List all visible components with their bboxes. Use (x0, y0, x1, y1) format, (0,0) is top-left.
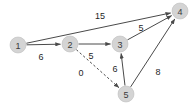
graph-node-3[interactable]: 3 (112, 36, 128, 52)
node-label-2: 2 (67, 40, 72, 50)
graph-figure: 15650568 12345 (0, 0, 196, 109)
edge-weight-3-4: 5 (138, 23, 143, 33)
edge-weight-2-5: 0 (78, 68, 83, 78)
edge-5-to-4 (131, 19, 175, 87)
edge-3-to-4 (127, 16, 171, 40)
node-label-3: 3 (117, 40, 122, 50)
node-label-4: 4 (177, 7, 182, 17)
edge-5-to-3 (121, 53, 125, 85)
edges-layer (26, 13, 175, 88)
node-label-5: 5 (123, 90, 128, 100)
edge-weight-2-3: 5 (88, 51, 93, 61)
graph-node-2[interactable]: 2 (62, 36, 78, 52)
graph-node-1[interactable]: 1 (10, 37, 26, 53)
graph-canvas: 15650568 12345 (0, 0, 196, 109)
node-label-1: 1 (15, 41, 20, 51)
graph-node-5[interactable]: 5 (118, 86, 134, 102)
edge-weight-1-2: 6 (38, 52, 43, 62)
edge-weight-1-4: 15 (95, 11, 105, 21)
edge-1-to-2 (26, 44, 60, 45)
graph-node-4[interactable]: 4 (172, 3, 188, 19)
edge-weight-5-3: 6 (112, 64, 117, 74)
edge-weight-5-4: 8 (155, 67, 160, 77)
